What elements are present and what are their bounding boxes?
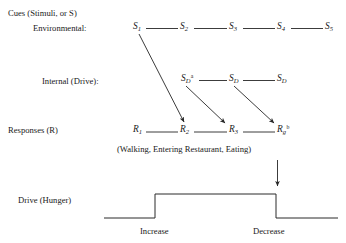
diagram-vector-overlay [0, 0, 346, 243]
arrow-s1-to-r2 [139, 34, 184, 122]
arrow-sd-a-to-r3 [186, 86, 225, 123]
arrow-sd-to-rg [234, 86, 274, 123]
stimulus-response-drive-diagram: Cues (Stimuli, or S) Environmental: Inte… [0, 0, 346, 243]
drive-step-waveform [104, 194, 338, 218]
